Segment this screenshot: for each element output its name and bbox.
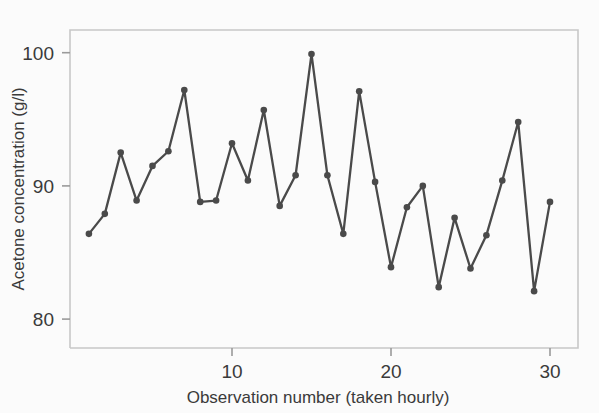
data-point bbox=[531, 288, 538, 295]
data-point bbox=[372, 179, 379, 186]
data-point bbox=[133, 197, 140, 204]
data-point bbox=[356, 88, 363, 95]
x-tick-label-30: 30 bbox=[539, 361, 560, 382]
data-point bbox=[308, 51, 315, 58]
data-point bbox=[388, 264, 395, 271]
chart-figure: 100 90 80 10 20 30 Observation number (t… bbox=[0, 0, 599, 413]
data-point bbox=[213, 197, 220, 204]
data-point bbox=[165, 148, 172, 155]
data-point bbox=[340, 231, 347, 238]
data-point bbox=[197, 199, 204, 206]
data-point bbox=[292, 172, 299, 179]
data-point bbox=[499, 177, 506, 184]
data-point bbox=[420, 183, 427, 190]
data-point bbox=[276, 203, 283, 210]
x-tick-label-20: 20 bbox=[380, 361, 401, 382]
data-point bbox=[435, 284, 442, 291]
data-point bbox=[229, 140, 236, 147]
data-point bbox=[245, 177, 252, 184]
data-point bbox=[483, 232, 490, 239]
data-point bbox=[467, 265, 474, 272]
data-point bbox=[181, 87, 188, 94]
data-point bbox=[149, 163, 156, 170]
data-point bbox=[117, 149, 124, 156]
data-point bbox=[86, 231, 93, 238]
data-point bbox=[515, 119, 522, 126]
y-axis-title: Acetone concentration (g/l) bbox=[9, 87, 28, 290]
data-point bbox=[451, 215, 458, 222]
line-chart: 100 90 80 10 20 30 Observation number (t… bbox=[0, 0, 599, 413]
data-point bbox=[324, 172, 331, 179]
data-point bbox=[261, 107, 268, 114]
data-point bbox=[404, 204, 411, 211]
data-point bbox=[547, 199, 554, 206]
y-tick-label-90: 90 bbox=[33, 176, 54, 197]
data-point bbox=[102, 211, 109, 218]
x-tick-label-10: 10 bbox=[221, 361, 242, 382]
figure-background bbox=[0, 0, 599, 413]
y-tick-label-80: 80 bbox=[33, 309, 54, 330]
x-axis-title: Observation number (taken hourly) bbox=[187, 388, 450, 407]
y-tick-label-100: 100 bbox=[22, 43, 54, 64]
